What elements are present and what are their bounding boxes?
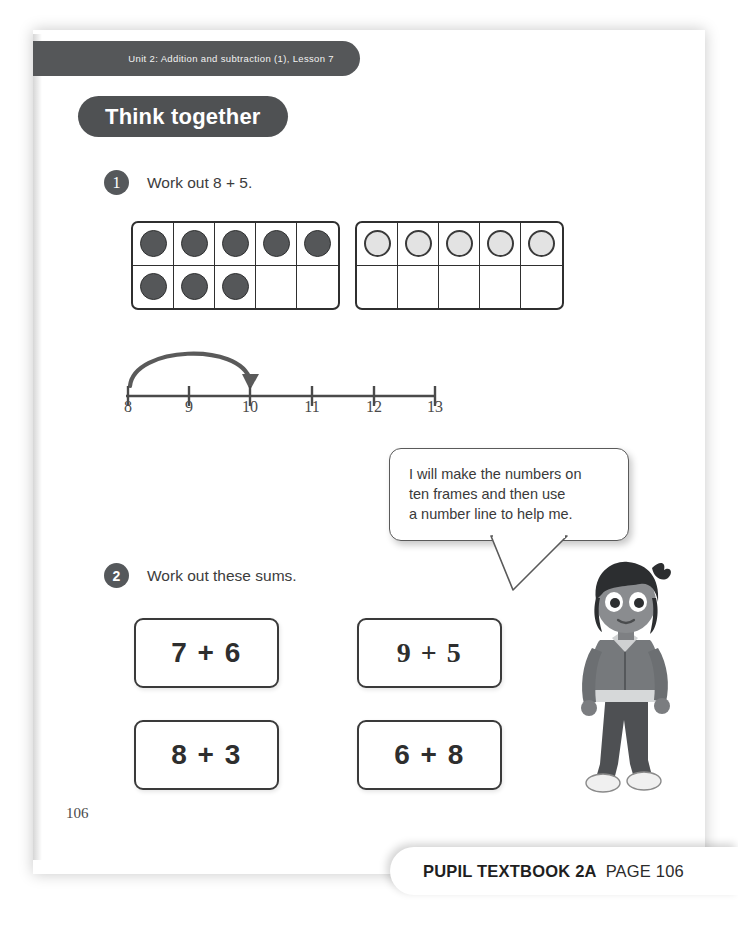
counter-dark	[140, 273, 167, 300]
character-hair-tuft	[652, 563, 671, 580]
counter-light	[405, 230, 432, 257]
ten-frame-cell	[174, 266, 215, 309]
section-title-label: Think together	[105, 104, 261, 130]
number-line-tick-label: 13	[427, 398, 443, 416]
speech-bubble-line: ten frames and then use	[409, 484, 611, 504]
counter-dark	[181, 273, 208, 300]
sum-box-label: 9 + 5	[397, 637, 462, 669]
character-illustration	[556, 552, 702, 800]
character-shoe-right	[627, 772, 661, 790]
number-line-tick-label: 8	[124, 398, 132, 416]
ten-frame-cell	[297, 223, 338, 266]
unit-banner-label: Unit 2: Addition and subtraction (1), Le…	[128, 53, 334, 64]
counter-dark	[304, 230, 331, 257]
ten-frame-cell	[174, 223, 215, 266]
question-1-row: 1 Work out 8 + 5.	[104, 170, 252, 195]
question-2-row: 2 Work out these sums.	[104, 563, 297, 588]
ten-frame-cell	[480, 223, 521, 266]
counter-dark	[222, 273, 249, 300]
sum-box[interactable]: 9 + 5	[357, 618, 502, 688]
character-pupil-right	[634, 598, 644, 608]
ten-frame-cell-empty	[398, 266, 439, 309]
counter-dark	[181, 230, 208, 257]
counter-dark	[140, 230, 167, 257]
ten-frame-cell	[215, 266, 256, 309]
number-line-graphic	[118, 338, 458, 430]
question-1-number-badge: 1	[104, 170, 129, 195]
ten-frame-cell	[215, 223, 256, 266]
sum-box[interactable]: 7 + 6	[134, 618, 279, 688]
ten-frame-cell-empty	[357, 266, 398, 309]
ten-frame-cell-empty	[256, 266, 297, 309]
section-title-pill: Think together	[78, 96, 288, 137]
counter-dark	[263, 230, 290, 257]
ten-frame-cell-empty	[521, 266, 562, 309]
ten-frame-cell	[357, 223, 398, 266]
speech-bubble-line: a number line to help me.	[409, 504, 611, 524]
footer-book-label: PUPIL TEXTBOOK 2A	[423, 862, 597, 881]
ten-frame-cell	[133, 266, 174, 309]
counter-dark	[222, 230, 249, 257]
speech-bubble-line: I will make the numbers on	[409, 464, 611, 484]
counter-light	[364, 230, 391, 257]
question-2-number-badge: 2	[104, 563, 129, 588]
number-line-tick-label: 10	[242, 398, 258, 416]
number-line-tick-label: 11	[304, 398, 319, 416]
character-shoe-left	[586, 774, 620, 792]
number-line: 8 9 10 11 12 13	[118, 338, 458, 430]
speech-bubble: I will make the numbers on ten frames an…	[389, 448, 629, 541]
character-hand-left	[581, 700, 597, 716]
ten-frame-cell	[133, 223, 174, 266]
ten-frame-cell	[521, 223, 562, 266]
character-pupil-left	[610, 598, 620, 608]
sum-box-label: 8 + 3	[171, 739, 242, 771]
ten-frame-first-addend	[131, 221, 340, 310]
character-jeans	[596, 692, 652, 780]
footer-page-label: PAGE 106	[606, 862, 684, 881]
ten-frame-second-addend	[355, 221, 564, 310]
ten-frame-cell	[398, 223, 439, 266]
sum-box[interactable]: 8 + 3	[134, 720, 279, 790]
sum-box[interactable]: 6 + 8	[357, 720, 502, 790]
jump-arc	[130, 354, 250, 386]
question-1-text: Work out 8 + 5.	[147, 174, 252, 192]
ten-frame-cell-empty	[439, 266, 480, 309]
counter-light	[446, 230, 473, 257]
counter-light	[528, 230, 555, 257]
sum-box-label: 7 + 6	[171, 637, 242, 669]
ten-frame-cell	[439, 223, 480, 266]
ten-frame-cell-empty	[480, 266, 521, 309]
number-line-tick-label: 9	[185, 398, 193, 416]
ten-frame-cell	[256, 223, 297, 266]
ten-frame-cell-empty	[297, 266, 338, 309]
footer-tab: PUPIL TEXTBOOK 2A PAGE 106	[390, 847, 738, 895]
question-2-text: Work out these sums.	[147, 567, 297, 585]
character-jacket-hem	[592, 690, 660, 702]
page-number: 106	[66, 805, 89, 822]
unit-banner: Unit 2: Addition and subtraction (1), Le…	[33, 41, 360, 76]
sum-box-label: 6 + 8	[394, 739, 465, 771]
character-hand-right	[654, 698, 670, 714]
counter-light	[487, 230, 514, 257]
number-line-tick-label: 12	[366, 398, 382, 416]
